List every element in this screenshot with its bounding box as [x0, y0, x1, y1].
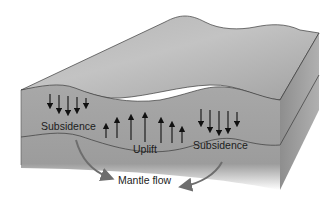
uplift-label: Uplift	[133, 143, 157, 155]
mantle-flow-label: Mantle flow	[118, 174, 172, 186]
subsidence-left-label: Subsidence	[41, 120, 96, 132]
mantle-flow-block-diagram: Subsidence Uplift Subsidence Mantle flow	[0, 0, 334, 224]
subsidence-right-label: Subsidence	[193, 139, 248, 151]
